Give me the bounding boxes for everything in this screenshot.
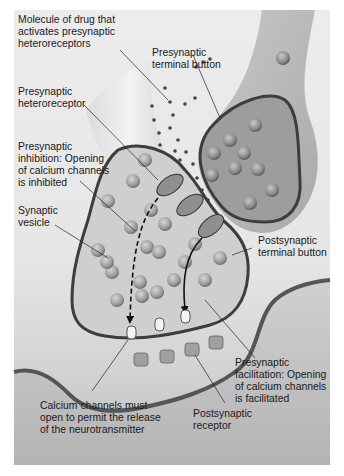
- label-presynaptic-facilitation: Presynaptic facilitation: Opening of cal…: [235, 357, 326, 405]
- label-postsynaptic-terminal: Postsynaptic terminal button: [258, 235, 327, 259]
- label-presynaptic-terminal: Presynaptic terminal button: [152, 47, 221, 71]
- label-heteroreceptor: Presynaptic heteroreceptor: [18, 86, 86, 110]
- label-drug-molecule: Molecule of drug that activates presynap…: [18, 14, 115, 50]
- label-postsynaptic-receptor: Postsynaptic receptor: [193, 408, 252, 432]
- postsynaptic-receptors: [134, 336, 223, 366]
- label-presynaptic-inhibition: Presynaptic inhibition: Opening of calci…: [18, 141, 109, 189]
- label-synaptic-vesicle: Synaptic vesicle: [18, 205, 58, 229]
- label-calcium-channels: Calcium channels must open to permit the…: [40, 400, 161, 436]
